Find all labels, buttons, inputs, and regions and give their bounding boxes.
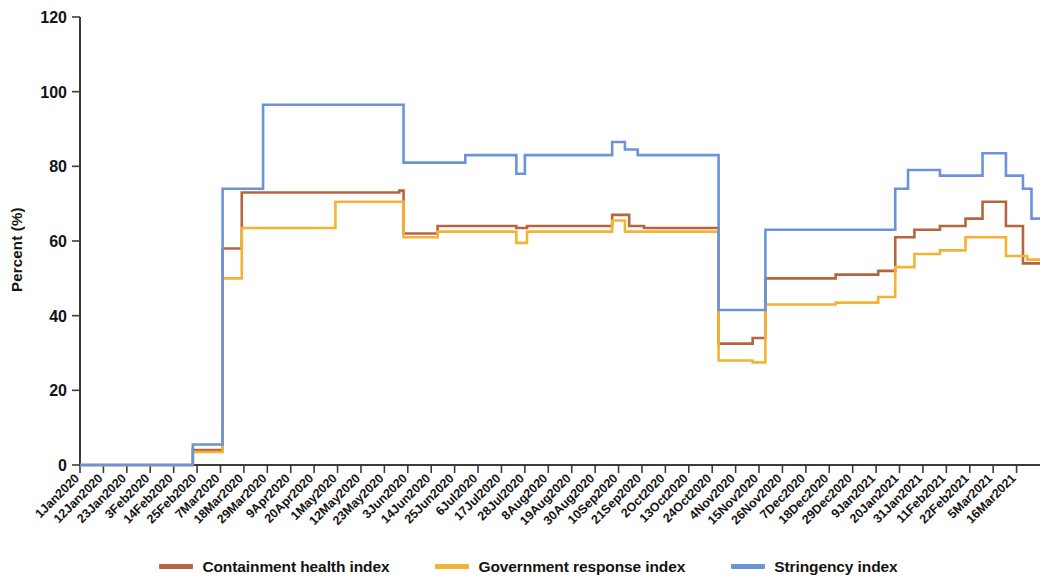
legend-item-stringency-index[interactable]: Stringency index [731, 558, 897, 576]
legend-item-government-response-index[interactable]: Government response index [435, 558, 685, 576]
y-axis-tick-marks [72, 17, 80, 465]
legend-label-stringency-index: Stringency index [774, 558, 897, 576]
y-tick-label: 20 [49, 382, 67, 399]
legend-label-containment-health-index: Containment health index [202, 558, 389, 576]
y-tick-label: 60 [49, 233, 67, 250]
chart-legend: Containment health index Government resp… [0, 552, 1057, 581]
y-tick-label: 80 [49, 158, 67, 175]
legend-swatch-containment-health-index [159, 564, 193, 569]
data-series-group [80, 105, 1040, 465]
legend-swatch-government-response-index [435, 564, 469, 569]
legend-swatch-stringency-index [731, 564, 765, 569]
x-axis-tick-labels: 1Jan202012Jan202023Jan20203Feb202014Feb2… [32, 471, 1018, 528]
y-axis-tick-labels: 020406080100120 [40, 9, 67, 474]
y-tick-label: 0 [58, 457, 67, 474]
y-tick-label: 100 [40, 84, 67, 101]
x-axis-tick-marks [80, 465, 1017, 473]
legend-label-government-response-index: Government response index [478, 558, 685, 576]
y-tick-label: 40 [49, 308, 67, 325]
y-tick-label: 120 [40, 9, 67, 26]
legend-item-containment-health-index[interactable]: Containment health index [159, 558, 389, 576]
line-chart-svg: 020406080100120 1Jan202012Jan202023Jan20… [0, 0, 1057, 581]
plot-area: 020406080100120 1Jan202012Jan202023Jan20… [0, 0, 1057, 581]
chart-figure: Percent (%) 020406080100120 1Jan202012Ja… [0, 0, 1057, 581]
